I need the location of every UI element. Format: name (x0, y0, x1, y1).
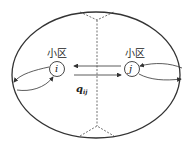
external-loop-j-out (139, 74, 181, 80)
external-loop-i-in (17, 77, 53, 90)
diagram: 小区 i 小区 j qij (0, 0, 191, 150)
external-loop-i-out (14, 67, 49, 82)
cell-j-symbol: j (127, 63, 132, 74)
cell-j-label: 小区 (125, 48, 145, 59)
cell-i-label: 小区 (47, 48, 67, 59)
cell-i-symbol: i (55, 63, 58, 74)
flow-label: qij (76, 83, 88, 96)
external-loop-j-in (140, 64, 182, 68)
divider-bottom-fork (80, 126, 114, 136)
